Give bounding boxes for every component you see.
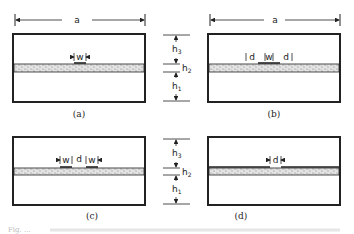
strip-label-w: w bbox=[88, 155, 95, 165]
strip-width-dimension: w d w bbox=[56, 154, 102, 165]
dielectric-layer bbox=[209, 64, 339, 72]
strip-label-w: w bbox=[76, 52, 83, 62]
figure-canvas: a w (a) h3 h2 h1 a bbox=[0, 0, 354, 234]
panel-caption-a: (a) bbox=[73, 109, 85, 119]
width-label: a bbox=[74, 15, 80, 25]
height-dimension-bottom: h3 h2 h1 bbox=[163, 139, 192, 204]
height-dimension-top: h3 h2 h1 bbox=[163, 35, 192, 101]
strip-label-w: w bbox=[265, 52, 272, 62]
dielectric-layer bbox=[209, 168, 339, 175]
strip-width-dimension: w bbox=[70, 52, 90, 62]
width-dimension-a: a bbox=[15, 14, 145, 26]
h2-label: h2 bbox=[182, 167, 192, 178]
h2-label: h2 bbox=[182, 63, 192, 74]
panel-c: w d w (c) bbox=[13, 137, 145, 221]
h3-label: h3 bbox=[172, 148, 182, 159]
panel-caption-d: (d) bbox=[235, 211, 248, 221]
panel-caption-c: (c) bbox=[86, 211, 98, 221]
strip-label-d: d bbox=[249, 52, 255, 62]
gap-dimension: d bbox=[266, 155, 285, 165]
h1-label: h1 bbox=[172, 81, 182, 92]
strip-width-dimension: d w d bbox=[246, 52, 292, 62]
h1-label: h1 bbox=[172, 184, 182, 195]
strip-label-w: w bbox=[62, 155, 69, 165]
width-dimension-b: a bbox=[210, 14, 340, 26]
panel-b: a d w d (b) bbox=[208, 14, 340, 119]
dielectric-layer bbox=[14, 64, 144, 72]
panel-a: a w (a) bbox=[13, 14, 145, 119]
width-label: a bbox=[272, 15, 278, 25]
strip-label-d: d bbox=[273, 155, 279, 165]
panel-caption-b: (b) bbox=[268, 109, 281, 119]
figure-caption: Fig. ... bbox=[8, 226, 31, 234]
strip-label-d: d bbox=[283, 52, 289, 62]
dielectric-layer bbox=[14, 168, 144, 175]
strip-label-d: d bbox=[76, 154, 82, 164]
h3-label: h3 bbox=[172, 44, 182, 55]
panel-d: d (d) bbox=[208, 137, 340, 221]
